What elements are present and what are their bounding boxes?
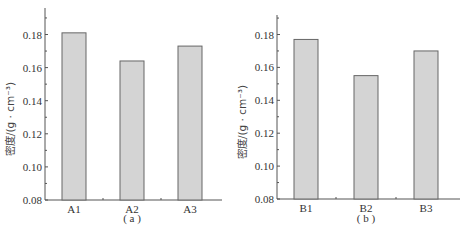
bar-a1 — [62, 33, 86, 200]
bar-a2 — [120, 61, 144, 200]
y-axis-label: 密度/(g · cm⁻³) — [236, 85, 248, 159]
y-tick-label: 0.10 — [255, 160, 275, 172]
x-tick-label: B3 — [420, 202, 433, 214]
y-tick-label: 0.08 — [255, 193, 275, 205]
y-tick-label: 0.18 — [255, 29, 275, 41]
y-tick-label: 0.16 — [255, 61, 275, 73]
y-tick-label: 0.18 — [23, 29, 43, 41]
x-tick-label: B1 — [300, 202, 313, 214]
y-tick-label: 0.14 — [23, 95, 43, 107]
y-tick-label: 0.08 — [23, 194, 43, 206]
panel-caption: ( a ) — [123, 212, 141, 225]
y-axis-label: 密度/(g · cm⁻³) — [4, 82, 16, 156]
bar-charts-figure: 0.080.100.120.140.160.18A1A2A3密度/(g · cm… — [0, 0, 464, 233]
chart-panel-a: 0.080.100.120.140.160.18A1A2A3密度/(g · cm… — [4, 8, 222, 225]
bar-b2 — [354, 76, 378, 199]
y-tick-label: 0.10 — [23, 161, 43, 173]
x-tick-label: A1 — [67, 203, 80, 215]
chart-panel-b: 0.080.100.120.140.160.18B1B2B3密度/(g · cm… — [236, 15, 460, 225]
panel-caption: ( b ) — [357, 212, 376, 225]
x-tick-label: A3 — [183, 203, 197, 215]
y-tick-label: 0.12 — [23, 128, 42, 140]
y-tick-label: 0.14 — [255, 94, 275, 106]
y-tick-label: 0.12 — [255, 127, 274, 139]
bar-b3 — [414, 51, 438, 199]
bar-b1 — [294, 39, 318, 199]
bar-a3 — [178, 46, 202, 200]
y-tick-label: 0.16 — [23, 62, 43, 74]
